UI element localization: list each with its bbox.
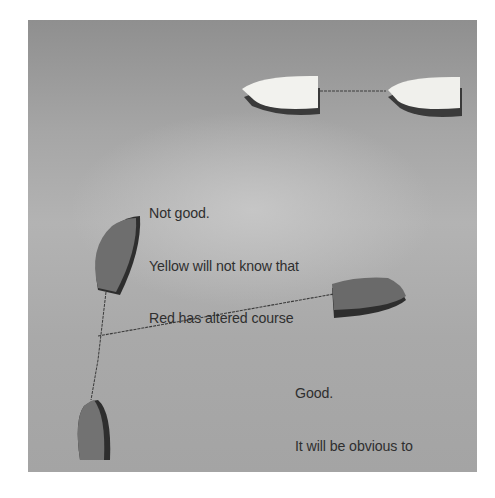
red-boat-altered-small <box>95 216 140 295</box>
annotation-line: Not good. <box>149 205 299 223</box>
not-good-annotation: Not good. Yellow will not know that Red … <box>149 170 299 363</box>
diagram-frame: Not good. Yellow will not know that Red … <box>28 20 477 472</box>
yellow-boat-leading <box>242 76 320 115</box>
yellow-boat-trailing <box>388 77 462 117</box>
annotation-line: Red has altered course <box>149 310 299 328</box>
annotation-line: Good. <box>295 385 418 403</box>
red-original-track <box>91 292 106 400</box>
red-boat-altered-large <box>332 278 406 318</box>
red-boat-original <box>78 400 111 460</box>
good-annotation: Good. It will be obvious to Yellow that … <box>295 350 418 472</box>
annotation-line: It will be obvious to <box>295 438 418 456</box>
annotation-line: Yellow will not know that <box>149 258 299 276</box>
